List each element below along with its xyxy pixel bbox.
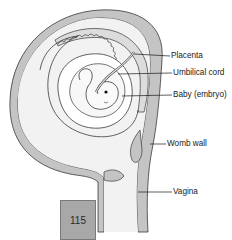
label-baby-embryo: Baby (embryo) bbox=[173, 90, 227, 100]
womb-diagram bbox=[0, 0, 232, 240]
label-vagina: Vagina bbox=[173, 187, 198, 197]
label-womb-wall: Womb wall bbox=[167, 139, 207, 149]
label-placenta: Placenta bbox=[171, 51, 203, 61]
page-number: 115 bbox=[70, 215, 86, 226]
page-number-box: 115 bbox=[60, 200, 96, 240]
label-umbilical-cord: Umbilical cord bbox=[173, 68, 224, 78]
